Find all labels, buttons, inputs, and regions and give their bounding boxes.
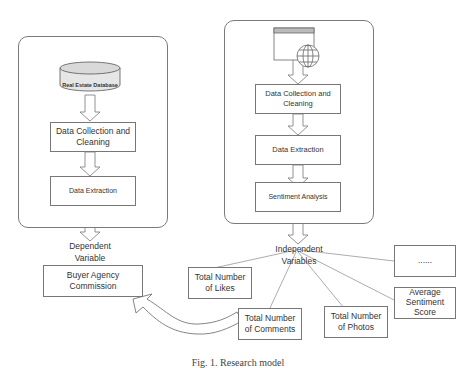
var-more-ellipsis: ...... bbox=[394, 245, 456, 277]
var-average-sentiment: Average Sentiment Score bbox=[394, 287, 456, 319]
right-step-collection: Data Collection and Cleaning bbox=[255, 84, 341, 114]
var-total-photos: Total Number of Photos bbox=[324, 306, 388, 338]
var-total-comments: Total Number of Comments bbox=[238, 308, 302, 340]
right-step-extraction: Data Extraction bbox=[255, 135, 341, 165]
dependent-variable-label: Dependent Variable bbox=[62, 241, 118, 265]
figure-caption: Fig. 1. Research model bbox=[0, 357, 476, 368]
left-step-collection: Data Collection and Cleaning bbox=[50, 122, 136, 152]
buyer-agency-commission-box: Buyer Agency Commission bbox=[43, 265, 143, 297]
right-step-sentiment: Sentiment Analysis bbox=[255, 182, 341, 212]
independent-variables-label: Independent Variables bbox=[272, 244, 326, 268]
var-total-likes: Total Number of Likes bbox=[188, 267, 252, 299]
database-label: Real Estate Database bbox=[60, 82, 120, 90]
left-step-extraction: Data Extraction bbox=[50, 176, 136, 206]
